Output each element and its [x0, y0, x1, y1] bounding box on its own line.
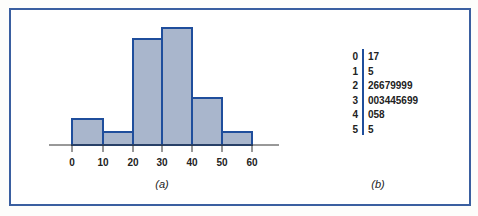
stem: 0 — [352, 51, 358, 62]
stem: 3 — [352, 95, 358, 106]
stem: 4 — [352, 109, 358, 120]
histogram-bar-40-50 — [192, 98, 222, 145]
stem: 2 — [352, 80, 358, 91]
x-tick-label: 30 — [156, 157, 168, 168]
histogram-bar-0-10 — [72, 119, 103, 145]
x-tick-label: 20 — [127, 157, 139, 168]
x-tick-label: 0 — [69, 157, 75, 168]
caption-b: (b) — [371, 178, 385, 190]
stem-and-leaf: 0 1 2 3 4 5 17 5 26679999 003445699 058 … — [352, 49, 418, 135]
figure-canvas: 0 10 20 30 40 50 60 (a) 0 1 2 3 4 5 17 5… — [0, 0, 478, 216]
stem: 1 — [352, 66, 358, 77]
leaves: 26679999 — [368, 80, 413, 91]
leaves: 5 — [368, 66, 374, 77]
leaves: 058 — [368, 109, 385, 120]
histogram-bar-20-30 — [133, 39, 162, 145]
x-tick-labels: 0 10 20 30 40 50 60 — [69, 157, 258, 168]
leaves: 5 — [368, 124, 374, 135]
x-tick-label: 60 — [246, 157, 258, 168]
leaves: 003445699 — [368, 95, 418, 106]
histogram — [72, 28, 252, 145]
histogram-bar-30-40 — [162, 28, 192, 145]
x-tick-label: 50 — [216, 157, 228, 168]
x-ticks — [72, 145, 252, 152]
histogram-bar-10-20 — [103, 132, 133, 145]
x-tick-label: 10 — [97, 157, 109, 168]
x-tick-label: 40 — [186, 157, 198, 168]
histogram-bar-50-60 — [222, 132, 252, 145]
stem: 5 — [352, 124, 358, 135]
caption-a: (a) — [155, 178, 169, 190]
leaves: 17 — [368, 51, 380, 62]
